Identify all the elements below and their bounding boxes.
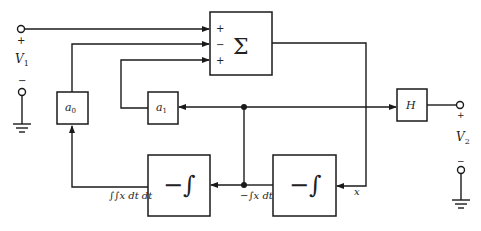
ground-icon-right xyxy=(452,174,470,209)
summer-input-plus-1: + xyxy=(216,23,224,34)
summer-input-minus: − xyxy=(216,39,224,50)
a0-block: a0 xyxy=(57,92,88,124)
h-label: H xyxy=(405,99,416,112)
integrator-block-left: −∫ xyxy=(148,155,210,216)
v1-minus-sign: − xyxy=(18,75,26,86)
v2-plus-sign: + xyxy=(457,110,465,120)
a1-block: a1 xyxy=(148,92,178,124)
first-integral-label: −∫x dt xyxy=(240,190,274,201)
input-terminal-plus xyxy=(18,26,25,33)
v1-plus-sign: + xyxy=(17,35,25,46)
ground-icon-left xyxy=(13,96,31,133)
integrator-left-symbol: −∫ xyxy=(163,171,196,199)
output-terminal-minus xyxy=(458,167,465,174)
sigma-symbol: Σ xyxy=(233,34,249,59)
v2-minus-sign: − xyxy=(457,156,465,166)
second-integral-wire xyxy=(72,126,148,187)
block-diagram: + V1 − + − + Σ x a0 a1 xyxy=(0,0,481,231)
integrator-right-symbol: −∫ xyxy=(289,171,322,199)
summer-block: + − + Σ xyxy=(210,12,272,75)
summer-input-plus-2: + xyxy=(216,55,224,66)
a0-to-summer-wire xyxy=(72,44,209,92)
v2-label: V2 xyxy=(456,130,470,146)
h-block: H xyxy=(397,89,427,121)
output-terminal-plus xyxy=(457,102,464,109)
signal-x-label: x xyxy=(354,186,360,197)
integrator-block-right: −∫ xyxy=(273,155,336,216)
input-terminal-minus xyxy=(19,89,26,96)
v1-label: V1 xyxy=(15,52,29,68)
second-integral-label: ∫∫x dt dt xyxy=(109,190,153,201)
